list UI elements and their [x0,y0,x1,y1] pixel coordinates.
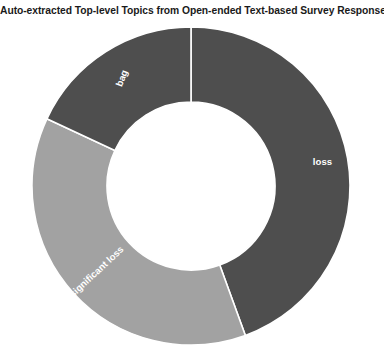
slice-label: loss [313,156,332,167]
slices-group [32,27,350,345]
donut-chart: losssignificant lossbag [0,0,384,346]
donut-svg: losssignificant lossbag [0,0,384,346]
chart-figure: Auto-extracted Top-level Topics from Ope… [0,0,384,346]
donut-slice[interactable] [32,119,245,345]
